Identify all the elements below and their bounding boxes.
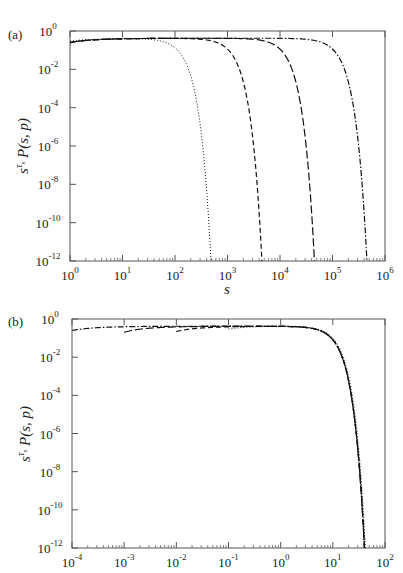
- y-title-rest: P(s, p): [15, 118, 32, 162]
- x-tick-label: 101: [324, 552, 342, 570]
- y-tick-base: 10: [38, 541, 51, 556]
- y-tick-label: 10-10: [38, 500, 63, 518]
- y-tick-exp: -4: [51, 98, 59, 108]
- curves-a: [70, 38, 368, 280]
- x-tick-exp: 3: [232, 265, 237, 275]
- y-tick-base: 10: [40, 388, 53, 403]
- x-tick-exp: 0: [285, 552, 290, 562]
- series-line-curve-1: [229, 326, 367, 567]
- y-tick-exp: -2: [51, 59, 59, 69]
- y-tick-label: 10-8: [38, 174, 59, 192]
- y-tick-exp: -6: [51, 136, 59, 146]
- x-tick-label: 10-2: [166, 552, 187, 570]
- x-tick-label: 102: [376, 552, 394, 570]
- y-tick-exp: -12: [51, 538, 63, 548]
- y-tick-exp: -2: [53, 347, 61, 357]
- series-line-curve-1: [70, 39, 213, 280]
- y-tick-base: 10: [36, 216, 49, 231]
- y-tick-base: 10: [36, 254, 49, 269]
- y-tick-base: 10: [39, 24, 52, 39]
- x-tick-base: 10: [62, 555, 75, 570]
- panel-b: (b) 10-410-310-210-1100101102 10010-210-…: [8, 309, 394, 570]
- y-tick-base: 10: [38, 139, 51, 154]
- x-tick-exp: 1: [127, 265, 132, 275]
- y-tick-base: 10: [40, 350, 53, 365]
- y-tick-label: 10-4: [40, 385, 61, 403]
- panel-label-a: (a): [8, 27, 22, 42]
- x-tick-exp: 4: [284, 265, 289, 275]
- y-tick-base: 10: [40, 427, 53, 442]
- x-tick-label: 106: [376, 265, 394, 283]
- plot-frame-a: [70, 31, 385, 261]
- series-line-curve-4: [72, 326, 366, 567]
- y-tick-base: 10: [38, 62, 51, 77]
- y-tick-label: 10-2: [40, 347, 61, 365]
- x-tick-label: 101: [114, 265, 132, 283]
- x-tick-base: 10: [114, 268, 127, 283]
- x-tick-label: 100: [61, 265, 79, 283]
- x-tick-exp: 6: [389, 265, 394, 275]
- x-tick-base: 10: [376, 268, 389, 283]
- x-tick-exp: -1: [231, 552, 239, 562]
- x-tick-base: 10: [166, 268, 179, 283]
- y-tick-label: 10-2: [38, 59, 59, 77]
- x-tick-exp: 2: [179, 265, 184, 275]
- x-tick-label: 10-4: [62, 552, 83, 570]
- x-tick-label: 105: [324, 265, 342, 283]
- x-tick-label: 100: [272, 552, 290, 570]
- x-tick-base: 10: [271, 268, 284, 283]
- x-tick-base: 10: [324, 268, 337, 283]
- x-tick-exp: 1: [337, 552, 342, 562]
- y-title-rest: P(s, p): [17, 406, 34, 450]
- x-tick-label: 104: [271, 265, 289, 283]
- y-tick-exp: -4: [53, 385, 61, 395]
- figure: (a) 100101102103104105106 10010-210-410-…: [0, 0, 403, 573]
- series-line-curve-3: [124, 326, 366, 567]
- y-tick-base: 10: [38, 101, 51, 116]
- series-line-curve-4: [70, 38, 368, 280]
- x-tick-base: 10: [272, 555, 285, 570]
- y-tick-base: 10: [40, 465, 53, 480]
- y-tick-exp: -12: [49, 251, 61, 261]
- x-tick-label: 102: [166, 265, 184, 283]
- series-line-curve-2: [176, 326, 365, 567]
- panel-label-b: (b): [8, 314, 23, 329]
- y-axis-title-b: sτs P(s, p): [15, 406, 34, 462]
- x-tick-exp: 0: [74, 265, 79, 275]
- x-axis-title-a: s: [224, 281, 230, 297]
- y-axis-title-b-text: sτs P(s, p): [15, 406, 34, 462]
- series-line-curve-3: [70, 38, 316, 280]
- y-tick-label: 10-6: [38, 136, 59, 154]
- panel-a: (a) 100101102103104105106 10010-210-410-…: [8, 21, 394, 297]
- x-tick-exp: -3: [127, 552, 135, 562]
- y-tick-label: 10-4: [38, 98, 59, 116]
- y-tick-label: 10-12: [36, 251, 61, 269]
- curves-b: [72, 326, 366, 567]
- y-tick-label: 10-10: [36, 213, 61, 231]
- plot-frame-b: [72, 319, 385, 548]
- y-tick-label: 10-8: [40, 462, 61, 480]
- y-tick-base: 10: [38, 177, 51, 192]
- y-tick-base: 10: [38, 503, 51, 518]
- x-tick-exp: 2: [389, 552, 394, 562]
- x-tick-exp: -2: [179, 552, 187, 562]
- x-tick-base: 10: [114, 555, 127, 570]
- x-tick-exp: 5: [337, 265, 342, 275]
- x-tick-label: 10-3: [114, 552, 135, 570]
- x-tick-base: 10: [218, 555, 231, 570]
- x-tick-base: 10: [324, 555, 337, 570]
- y-tick-exp: -8: [51, 174, 59, 184]
- y-tick-exp: -8: [53, 462, 61, 472]
- x-tick-label: 10-1: [218, 552, 239, 570]
- x-tick-base: 10: [166, 555, 179, 570]
- y-tick-exp: -10: [49, 213, 61, 223]
- y-tick-exp: -10: [51, 500, 63, 510]
- y-tick-exp: 0: [52, 21, 57, 31]
- x-tick-base: 10: [61, 268, 74, 283]
- x-tick-exp: -4: [75, 552, 83, 562]
- series-line-curve-2: [70, 38, 264, 280]
- y-tick-label: 100: [41, 309, 59, 327]
- x-tick-base: 10: [376, 555, 389, 570]
- y-tick-label: 10-6: [40, 424, 61, 442]
- y-tick-exp: -6: [53, 424, 61, 434]
